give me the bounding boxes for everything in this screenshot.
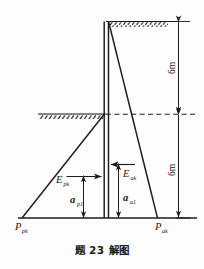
label-Ppk-main: P	[14, 221, 22, 232]
label-Epk-sub: pk	[63, 181, 70, 187]
passive-pressure-triangle	[22, 115, 104, 219]
label-Eak-main: E	[122, 168, 130, 179]
label-aa1: a a1	[123, 192, 136, 205]
label-Eak-sub: ak	[131, 175, 137, 181]
label-Pak-sub: ak	[162, 228, 168, 234]
diagram-canvas: E pk a p1 E ak a a1 P pk P ak 6m 6m	[0, 0, 204, 269]
label-aa1-sub: a1	[130, 199, 136, 205]
active-pressure-triangle	[109, 23, 158, 219]
retaining-wall	[104, 22, 108, 219]
left-ground-surface	[38, 114, 106, 119]
dimension-lines	[168, 22, 190, 219]
label-Ppk: P pk	[14, 221, 28, 234]
dimension-label-lower: 6m	[167, 163, 177, 176]
label-ap1: a p1	[70, 194, 83, 207]
figure-caption: 题 23 解图	[0, 242, 204, 257]
label-ap1-sub: p1	[76, 201, 83, 207]
label-Epk-main: E	[55, 174, 63, 185]
engineering-diagram: E pk a p1 E ak a a1 P pk P ak 6m 6m	[0, 0, 204, 269]
label-Eak: E ak	[122, 168, 137, 181]
label-Pak: P ak	[154, 221, 168, 234]
label-Ppk-sub: pk	[21, 228, 28, 234]
label-Pak-main: P	[154, 221, 162, 232]
top-ground-surface	[106, 22, 179, 27]
dimension-label-upper: 6m	[167, 61, 177, 74]
label-ap1-main: a	[70, 194, 75, 205]
label-aa1-main: a	[123, 192, 128, 203]
